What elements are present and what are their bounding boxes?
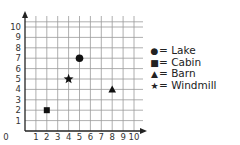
legend-item-windmill: ★= Windmill: [150, 80, 217, 92]
x-tick-label: 3: [55, 132, 60, 142]
square-icon: ■: [150, 58, 159, 68]
x-tick-label: 1: [33, 132, 38, 142]
y-axis-arrow-icon: [22, 11, 28, 18]
triangle-icon: ▲: [150, 69, 159, 79]
legend-item-lake: ●= Lake: [150, 45, 217, 57]
x-tick-label: 9: [120, 132, 125, 142]
x-tick-label: 8: [109, 132, 114, 142]
y-tick-label: 4: [16, 84, 21, 94]
y-tick-label: 8: [16, 43, 21, 53]
legend-label: = Windmill: [159, 80, 217, 92]
y-tick-label: 5: [16, 74, 21, 84]
x-tick-label: 7: [99, 132, 104, 142]
x-tick-label: 6: [88, 132, 93, 142]
legend: ●= Lake ■= Cabin ▲= Barn ★= Windmill: [150, 45, 217, 92]
y-tick-label: 1: [16, 116, 21, 126]
y-tick-label: 2: [16, 105, 21, 115]
star-icon: ★: [150, 81, 159, 91]
cabin-marker-icon: [44, 107, 50, 113]
x-tick-label: 0: [3, 132, 8, 142]
circle-icon: ●: [150, 46, 159, 56]
x-tick-label: 5: [77, 132, 82, 142]
coordinate-grid: 01234567891012345678910: [0, 0, 150, 145]
y-tick-label: 3: [16, 95, 21, 105]
barn-marker-icon: [108, 85, 116, 92]
lake-marker-icon: [76, 54, 84, 62]
x-axis-arrow-icon: [140, 128, 147, 134]
x-tick-label: 2: [44, 132, 49, 142]
y-tick-label: 7: [16, 53, 21, 63]
y-tick-label: 10: [10, 22, 21, 32]
x-tick-label: 10: [129, 132, 140, 142]
x-tick-label: 4: [66, 132, 71, 142]
y-tick-label: 6: [16, 64, 21, 74]
y-tick-label: 9: [16, 32, 21, 42]
legend-label: = Lake: [159, 45, 196, 57]
